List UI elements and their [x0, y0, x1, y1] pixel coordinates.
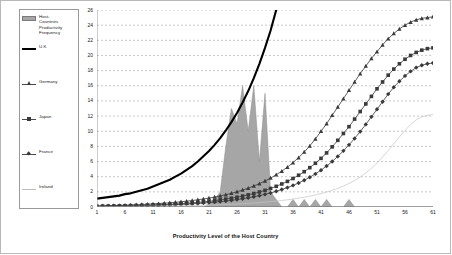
data-point-marker [280, 182, 284, 186]
data-point-marker [269, 187, 273, 191]
x-tick-label: 36 [285, 210, 301, 215]
data-point-marker [291, 183, 295, 187]
y-tick-label: 4 [79, 174, 93, 179]
y-tick-label: 2 [79, 189, 93, 194]
y-tick-label: 8 [79, 144, 93, 149]
x-tick-label: 51 [369, 210, 385, 215]
x-tick-label: 21 [201, 210, 217, 215]
data-point-marker [280, 169, 284, 173]
legend-item-frequency: Host- Countries Productivity Frequency [22, 14, 76, 36]
data-point-marker [319, 157, 323, 161]
data-point-marker [258, 190, 262, 194]
data-series-layer [97, 10, 433, 207]
legend-item-uk: U.K [22, 44, 76, 54]
data-point-marker [286, 180, 290, 184]
plot-area [97, 10, 433, 207]
area-swatch-icon [22, 15, 37, 24]
data-point-marker [280, 187, 284, 191]
data-point-marker [314, 161, 318, 165]
data-point-marker [370, 95, 374, 99]
y-tick-label: 0 [79, 205, 93, 210]
x-tick-label: 56 [397, 210, 413, 215]
data-point-marker [263, 189, 267, 193]
x-tick-label: 6 [117, 210, 133, 215]
legend-label-japan: Japan [39, 114, 51, 119]
legend-label-uk: U.K [39, 44, 46, 49]
y-tick-label: 16 [79, 83, 93, 88]
legend-item-germany: Germany [22, 79, 76, 89]
legend-item-japan: Japan [22, 114, 76, 124]
data-point-marker [308, 175, 312, 179]
data-point-marker [414, 65, 418, 69]
data-point-marker [308, 166, 312, 170]
data-point-marker [358, 110, 362, 114]
y-tick-label: 20 [79, 53, 93, 58]
data-point-marker [431, 46, 433, 50]
data-point-marker [274, 173, 278, 177]
data-point-marker [296, 181, 300, 185]
chart-legend: Host- Countries Productivity Frequency U… [19, 9, 79, 209]
data-point-marker [409, 54, 413, 58]
x-tick-label: 46 [341, 210, 357, 215]
data-point-marker [353, 117, 357, 121]
data-point-marker [274, 185, 278, 189]
data-point-marker [364, 102, 368, 106]
data-point-marker [313, 172, 317, 176]
data-point-marker [398, 62, 402, 66]
y-tick-label: 26 [79, 8, 93, 13]
y-tick-label: 10 [79, 129, 93, 134]
data-point-marker [426, 47, 430, 51]
x-tick-label: 61 [425, 210, 441, 215]
y-tick-label: 6 [79, 159, 93, 164]
chart-container: Host- Countries Productivity Frequency U… [0, 0, 451, 254]
thin-line-icon [22, 185, 37, 194]
legend-item-france: France [22, 149, 76, 159]
y-tick-label: 18 [79, 68, 93, 73]
x-tick-label: 41 [313, 210, 329, 215]
thick-line-icon [22, 45, 37, 54]
legend-label-france: France [39, 149, 53, 154]
data-point-marker [420, 48, 424, 52]
data-point-marker [414, 51, 418, 55]
legend-item-ireland: Ireland [22, 184, 76, 194]
diamond-line-icon [22, 150, 37, 159]
data-point-marker [403, 57, 407, 61]
data-point-marker [342, 132, 346, 136]
data-point-marker [285, 185, 289, 189]
legend-label-germany: Germany [39, 79, 57, 84]
data-point-marker [291, 177, 295, 181]
x-axis-title: Productivity Level of the Host Country [1, 233, 450, 239]
data-point-marker [330, 145, 334, 149]
legend-label-frequency: Host- Countries Productivity Frequency [39, 14, 62, 36]
data-point-marker [397, 27, 401, 31]
data-point-marker [347, 125, 351, 129]
square-line-icon [22, 115, 37, 124]
y-tick-label: 14 [79, 98, 93, 103]
x-tick-label: 16 [173, 210, 189, 215]
x-tick-label: 1 [89, 210, 105, 215]
data-point-marker [302, 178, 306, 182]
data-point-marker [431, 61, 433, 65]
y-tick-label: 12 [79, 114, 93, 119]
data-point-marker [381, 80, 385, 84]
triangle-line-icon [22, 80, 37, 89]
data-point-marker [386, 73, 390, 77]
data-point-marker [431, 15, 433, 19]
data-point-marker [302, 170, 306, 174]
data-point-marker [274, 189, 278, 193]
data-point-marker [375, 87, 379, 91]
x-tick-label: 26 [229, 210, 245, 215]
data-point-marker [420, 63, 424, 67]
x-tick-label: 11 [145, 210, 161, 215]
data-point-marker [297, 173, 301, 177]
data-point-marker [336, 139, 340, 143]
plot-svg [97, 10, 433, 207]
y-tick-label: 22 [79, 38, 93, 43]
data-point-marker [392, 67, 396, 71]
legend-label-ireland: Ireland [39, 184, 53, 189]
data-point-marker [425, 62, 429, 66]
y-tick-label: 24 [79, 23, 93, 28]
data-point-marker [325, 151, 329, 155]
x-tick-label: 31 [257, 210, 273, 215]
